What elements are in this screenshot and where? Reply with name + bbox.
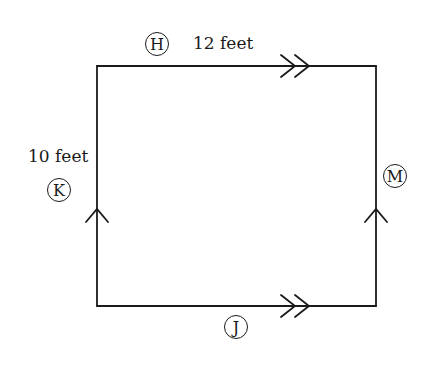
circled-label-m: M bbox=[383, 164, 407, 188]
left-length-label: 10 feet bbox=[28, 148, 88, 165]
top-length-label: 12 feet bbox=[193, 35, 253, 52]
circled-label-h: H bbox=[145, 32, 169, 56]
circled-label-k: K bbox=[47, 178, 71, 202]
circled-label-j: J bbox=[224, 315, 248, 339]
